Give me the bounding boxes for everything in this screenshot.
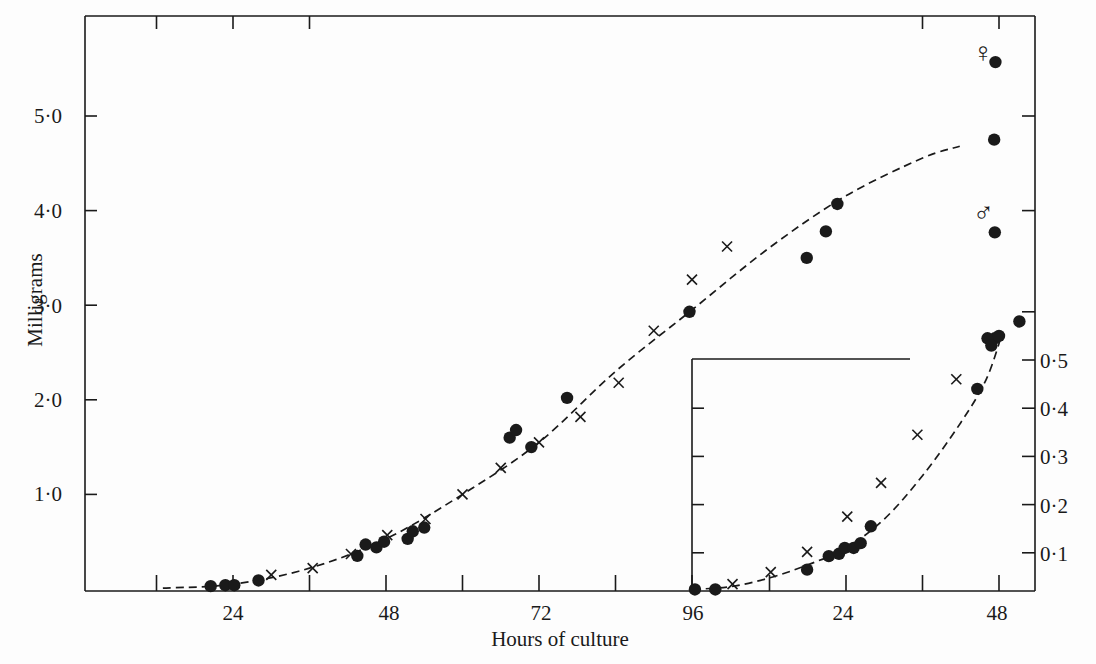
- x-tick-label: 48: [379, 601, 400, 625]
- dot-marker: [709, 583, 721, 595]
- cross-marker: [649, 326, 659, 336]
- cross-marker: [802, 547, 812, 557]
- cross-marker: [614, 378, 624, 388]
- inset-x-tick-label: 24: [833, 601, 855, 625]
- cross-marker: [912, 430, 922, 440]
- dot-marker: [988, 133, 1000, 145]
- dot-marker: [820, 225, 832, 237]
- dot-marker: [1013, 315, 1025, 327]
- inset-y-tick-label: 0·5: [1040, 349, 1068, 373]
- dot-marker: [561, 392, 573, 404]
- fitted-curves: [163, 146, 1002, 589]
- dot-marker: [510, 424, 522, 436]
- cross-marker: [728, 579, 738, 589]
- dot-marker: [865, 520, 877, 532]
- inset-y-tick-label: 0·2: [1040, 494, 1068, 518]
- dot-marker: [831, 198, 843, 210]
- chart-canvas: ♀♂ Hours of culture Milligrams 1·0 2·0 3…: [0, 0, 1096, 664]
- cross-marker: [842, 512, 852, 522]
- main-fitted-curve: [163, 146, 960, 588]
- dot-marker: [252, 574, 264, 586]
- dot-marker: [228, 579, 240, 591]
- inset-y-tick-label: 0·3: [1040, 445, 1068, 469]
- y-tick-label: 1·0: [34, 482, 62, 506]
- y-tick-label: 4·0: [34, 199, 62, 223]
- dot-marker: [854, 537, 866, 549]
- x-tick-label: 24: [223, 601, 245, 625]
- y-tick-label: 2·0: [34, 388, 62, 412]
- inset-x-tick-label: 48: [987, 601, 1008, 625]
- axis-ticks: [85, 16, 1035, 591]
- inset-y-tick-label: 0·1: [1040, 542, 1068, 566]
- sex-annotations: ♀♂: [973, 37, 994, 229]
- dot-marker: [683, 306, 695, 318]
- cross-marker: [687, 275, 697, 285]
- cross-marker: [534, 437, 544, 447]
- dot-marker: [993, 330, 1005, 342]
- dot-marker: [689, 583, 701, 595]
- dot-marker: [801, 563, 813, 575]
- y-tick-label: 5·0: [34, 104, 62, 128]
- cross-marker: [575, 412, 585, 422]
- x-tick-label: 72: [531, 601, 552, 625]
- dot-marker: [801, 252, 813, 264]
- growth-chart: ♀♂ Hours of culture Milligrams 1·0 2·0 3…: [0, 0, 1096, 664]
- cross-marker: [458, 489, 468, 499]
- dot-marker: [359, 538, 371, 550]
- x-tick-label: 96: [683, 601, 704, 625]
- dot-marker: [971, 383, 983, 395]
- cross-marker: [766, 567, 776, 577]
- plot-frame: [85, 16, 1035, 591]
- dot-marker: [204, 580, 216, 592]
- cross-marker: [722, 242, 732, 252]
- inset-y-tick-label: 0·4: [1040, 397, 1068, 421]
- cross-marker: [951, 374, 961, 384]
- inset-frame: [692, 359, 910, 591]
- dot-marker: [525, 441, 537, 453]
- cross-marker: [876, 478, 886, 488]
- dot-marker: [985, 339, 997, 351]
- dot-marker: [407, 525, 419, 537]
- y-tick-label: 3·0: [34, 294, 62, 318]
- x-axis-title: Hours of culture: [491, 627, 629, 651]
- male-symbol: ♂: [973, 197, 994, 228]
- data-points: [204, 56, 1025, 596]
- female-symbol: ♀: [973, 37, 994, 68]
